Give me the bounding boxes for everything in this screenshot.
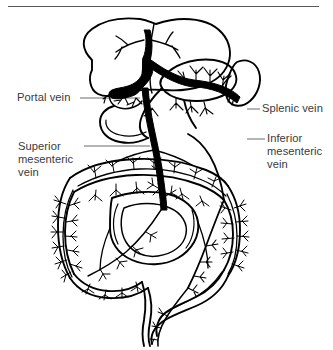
portal-venous-system-figure: Portal vein Splenic vein Superior mesent… [0, 0, 333, 350]
sigmoid-colon-inner [156, 270, 224, 336]
mesentery-fold-left [100, 228, 110, 270]
left-portal-branch [115, 36, 144, 59]
vasa-recta-transverse-upper [88, 157, 221, 187]
label-superior-mesenteric-vein-line-2: mesenteric [18, 153, 73, 166]
label-portal-vein-text: Portal vein [17, 91, 70, 103]
label-splenic-vein: Splenic vein [262, 102, 323, 115]
pancreas-head-lower [184, 100, 196, 128]
label-inferior-mesenteric-vein-line-3: vein [267, 158, 322, 171]
right-portal-branch [151, 32, 180, 58]
cecum-sigmoid-lower-left-inner [74, 274, 142, 291]
vasa-recta-transverse-lower [89, 182, 209, 206]
small-bowel-arcade-left [114, 204, 119, 244]
label-inferior-mesenteric-vein-line-1: Inferior [267, 132, 322, 145]
small-bowel-arcade-right [186, 210, 194, 248]
sigmoid-veins [188, 240, 218, 296]
label-inferior-mesenteric-vein-line-2: mesenteric [267, 145, 322, 158]
ascending-colon-lateral [58, 178, 70, 278]
label-portal-vein: Portal vein [17, 91, 70, 104]
label-superior-mesenteric-vein: Superior mesenteric vein [18, 140, 73, 180]
label-splenic-vein-text: Splenic vein [262, 102, 323, 114]
label-superior-mesenteric-vein-line-1: Superior [18, 140, 73, 153]
ileocolic-vein [88, 210, 161, 276]
label-inferior-mesenteric-vein: Inferior mesenteric vein [267, 132, 322, 172]
label-superior-mesenteric-vein-line-3: vein [18, 166, 73, 179]
